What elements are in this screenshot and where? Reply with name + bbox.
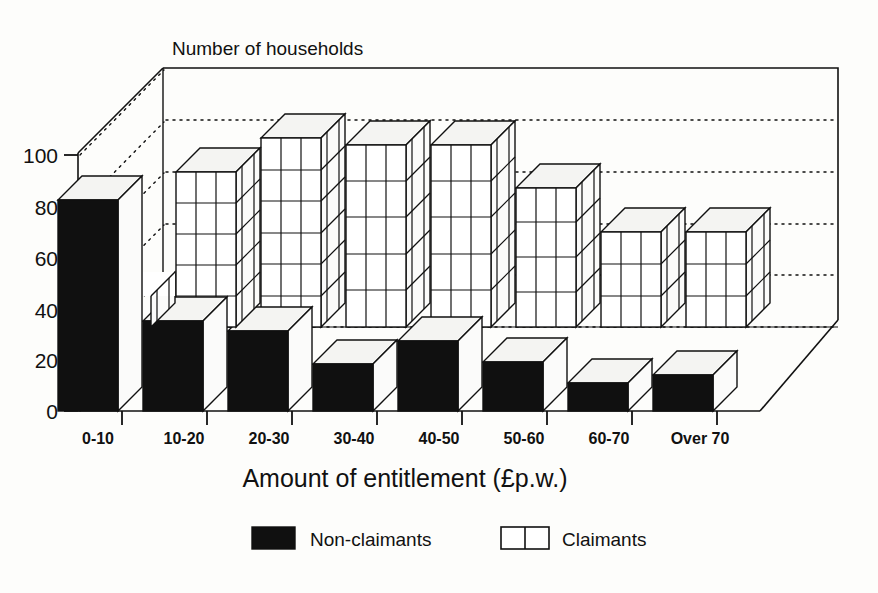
x-tick-label-over-70: Over 70 (671, 430, 730, 447)
y-tick-label-0: 0 (46, 400, 58, 423)
bar-claimants-over-70 (686, 208, 770, 327)
bar-chart-svg: 100 80 60 40 20 0 Number of households (0, 0, 878, 593)
bar-non-claimants-over-70 (653, 351, 737, 411)
y-axis-title: Number of households (172, 38, 363, 59)
bar-claimants-20-30 (261, 114, 345, 327)
legend-label-non-claimants: Non-claimants (310, 529, 431, 550)
bar-non-claimants-0-10 (58, 176, 142, 411)
y-axis-tick-labels: 100 80 60 40 20 0 (23, 144, 58, 423)
bar-non-claimants-50-60 (483, 338, 567, 411)
x-tick-label-40-50: 40-50 (419, 430, 460, 447)
x-tick-label-20-30: 20-30 (249, 430, 290, 447)
x-axis-title: Amount of entitlement (£p.w.) (242, 464, 567, 492)
legend-swatch-non-claimants (252, 527, 295, 549)
bar-non-claimants-60-70 (568, 359, 652, 411)
bar-claimants-60-70 (601, 208, 685, 327)
x-tick-label-30-40: 30-40 (334, 430, 375, 447)
bar-non-claimants-30-40 (313, 340, 397, 411)
x-tick-label-50-60: 50-60 (504, 430, 545, 447)
bar-claimants-30-40 (346, 121, 430, 327)
bar-claimants-40-50 (431, 121, 515, 327)
y-tick-label-40: 40 (35, 299, 58, 322)
chart-container: 100 80 60 40 20 0 Number of households (0, 0, 878, 593)
legend-label-claimants: Claimants (562, 529, 646, 550)
y-tick-label-80: 80 (35, 196, 58, 219)
x-axis-tick-labels: 0-10 10-20 20-30 30-40 40-50 50-60 60-70… (82, 430, 729, 447)
y-tick-label-20: 20 (35, 349, 58, 372)
x-tick-label-0-10: 0-10 (82, 430, 114, 447)
x-tick-label-10-20: 10-20 (164, 430, 205, 447)
x-tick-label-60-70: 60-70 (589, 430, 630, 447)
chart-legend: Non-claimants Claimants (252, 527, 646, 550)
bar-claimants-50-60 (516, 164, 600, 327)
x-axis-ticks (122, 411, 717, 425)
y-tick-label-60: 60 (35, 247, 58, 270)
bar-non-claimants-40-50 (398, 317, 482, 411)
y-tick-label-100: 100 (23, 144, 58, 167)
legend-swatch-claimants (501, 527, 549, 549)
